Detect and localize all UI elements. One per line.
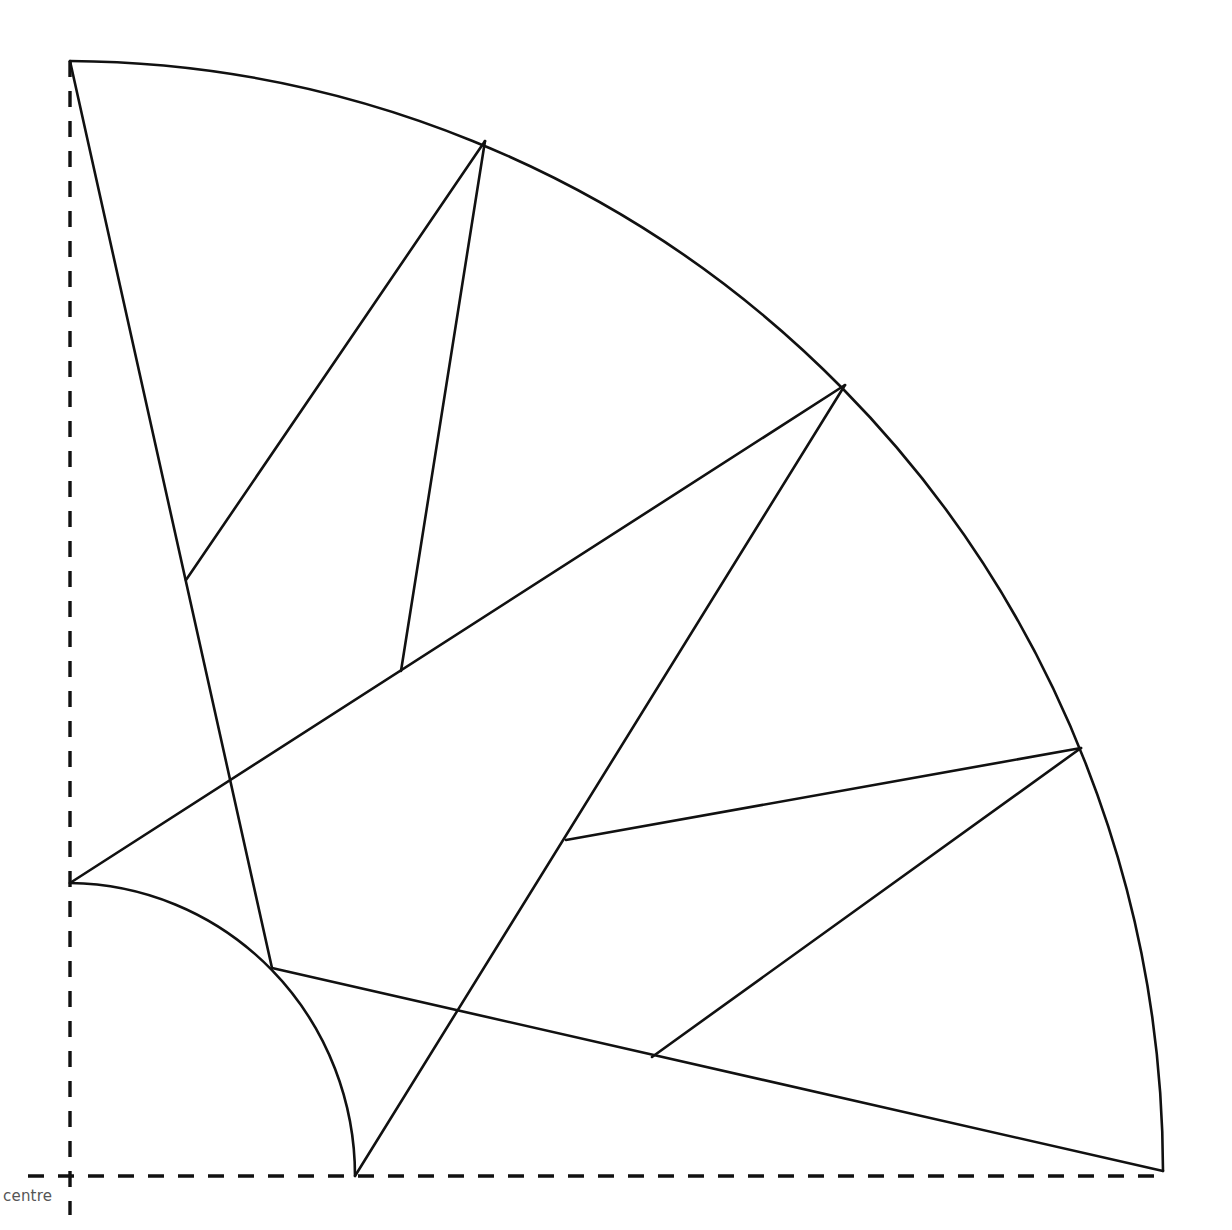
inner-arc: [70, 883, 355, 1176]
segment-top-to-inner: [70, 61, 272, 968]
sector-diagram: [0, 0, 1232, 1230]
centre-label: centre: [3, 1187, 52, 1205]
segment-bottom-chord: [272, 968, 1163, 1171]
outer-arc: [70, 61, 1163, 1171]
segment-right-lower: [652, 748, 1081, 1057]
segment-left-apex-b: [401, 141, 485, 671]
segment-group: [70, 61, 1163, 1176]
segment-left-apex-a: [186, 141, 485, 580]
segment-long-diagonal: [70, 385, 845, 883]
segment-right-upper: [566, 748, 1081, 840]
